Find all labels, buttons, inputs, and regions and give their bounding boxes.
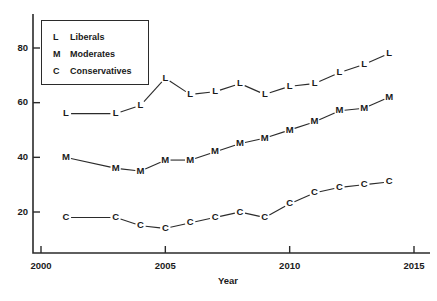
data-point-marker: L [113,107,119,118]
series-segment [270,88,285,93]
y-tick-label: 60 [17,96,28,107]
series-segment [245,139,260,142]
data-point-marker: L [386,47,392,58]
series-segment [220,213,235,216]
y-tick-label: 80 [17,42,28,53]
series-segment [71,158,111,167]
legend-item-liberals: L Liberals [42,28,148,45]
data-point-marker: C [286,197,293,208]
data-point-marker: M [236,137,244,148]
series-segment [170,81,186,92]
data-point-marker: C [187,216,194,227]
data-point-marker: L [287,80,293,91]
x-tick-label: 2000 [30,260,51,271]
data-point-marker: C [112,211,119,222]
series-segment [319,113,334,120]
series-segment [269,206,285,215]
data-point-marker: C [236,206,243,217]
data-point-marker: L [237,77,243,88]
data-point-marker: M [261,132,269,143]
data-point-marker: L [312,77,318,88]
series-segment [295,84,310,86]
data-point-marker: L [212,85,218,96]
series-segment [195,153,210,158]
series-segment [220,85,235,90]
series-segment [369,99,384,106]
legend: L Liberals M Moderates C Conservatives [41,20,149,85]
data-point-marker: M [286,124,294,135]
y-axis-ticks: 20406080 [17,42,40,217]
legend-label-liberals: Liberals [70,32,105,42]
series-segment [245,213,260,216]
data-point-marker: M [211,145,219,156]
y-tick-label: 20 [17,206,28,217]
series-segment [369,56,384,63]
series-segment [344,66,359,71]
x-tick-label: 2015 [403,260,425,271]
x-axis-ticks: 2000200520102015 [30,246,425,271]
series-segment [369,183,384,185]
x-axis-title: Year [218,275,238,286]
series-segment [195,219,210,222]
data-point-marker: L [138,99,144,110]
data-point-marker: M [62,151,70,162]
data-point-marker: M [186,154,194,165]
series-segment [294,195,309,202]
series-segment [195,92,210,94]
legend-key-liberals: L [53,32,70,42]
data-point-marker: M [311,115,319,126]
legend-item-moderates: M Moderates [42,45,148,62]
y-tick-label: 40 [17,151,28,162]
data-point-marker: M [360,102,368,113]
data-point-marker: L [336,66,342,77]
legend-label-moderates: Moderates [70,49,115,59]
data-point-marker: C [311,186,318,197]
series-segment [170,224,185,227]
series-segment [345,109,360,111]
series-segment [345,185,360,187]
series-segment [146,226,161,228]
data-point-marker: L [162,72,168,83]
legend-label-conservatives: Conservatives [70,66,132,76]
series-segment [270,132,285,137]
data-point-marker: M [137,165,145,176]
series-segment [121,219,136,224]
series-segment [145,162,160,169]
data-point-marker: M [335,104,343,115]
legend-key-conservatives: C [53,66,70,76]
data-point-marker: C [162,222,169,233]
series-segment [220,145,235,150]
series-segment [295,123,310,128]
series-segment [319,75,334,82]
data-point-marker: L [187,88,193,99]
data-point-marker: M [112,162,120,173]
data-point-marker: C [137,219,144,230]
data-point-marker: L [63,107,69,118]
data-point-marker: M [385,91,393,102]
series-segment [320,189,335,192]
line-chart: 20406080 2000200520102015 LLLLLLLLLLLLLM… [0,0,437,301]
legend-item-conservatives: C Conservatives [42,62,148,79]
data-point-marker: C [212,211,219,222]
series-segment [245,86,260,93]
data-point-marker: L [361,58,367,69]
data-point-marker: C [361,178,368,189]
series-segment [121,169,136,171]
data-point-marker: M [161,154,169,165]
series-segment [121,107,136,112]
data-point-marker: C [261,211,268,222]
legend-key-moderates: M [53,49,70,59]
data-point-marker: L [262,88,268,99]
data-point-marker: C [62,211,69,222]
data-point-marker: C [336,181,343,192]
data-point-marker: C [386,175,393,186]
x-tick-label: 2005 [155,260,177,271]
x-tick-label: 2010 [279,260,300,271]
